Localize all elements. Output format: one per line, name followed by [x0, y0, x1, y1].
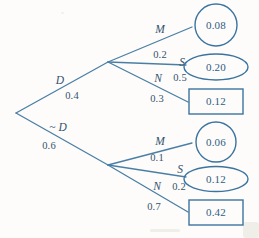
branch-prob-lower-M: 0.1: [150, 152, 164, 163]
branch-label-upper-N: N: [153, 72, 163, 84]
branch-prob-upper-N: 0.3: [150, 93, 164, 104]
branch-prob-D: 0.4: [65, 90, 79, 101]
branch-prob-upper-M: 0.2: [153, 49, 167, 60]
branch-prob-not-D: 0.6: [42, 140, 56, 151]
outcome-value-1: 0.08: [206, 19, 226, 31]
branch-label-D: D: [55, 74, 65, 86]
branch-label-lower-N: N: [152, 180, 162, 192]
branch-label-not-D: ~ D: [49, 121, 67, 133]
outcome-value-4: 0.06: [206, 136, 226, 148]
outcome-value-6: 0.42: [206, 206, 226, 218]
tree-canvas: D 0.4 ~ D 0.6 M 0.2 S 0.5 N 0.3 M 0.1 S …: [0, 0, 259, 238]
outcome-value-3: 0.12: [206, 95, 226, 107]
branch-label-lower-M: M: [154, 135, 166, 147]
branch-label-upper-M: M: [154, 23, 166, 35]
edge-root-to-D: [16, 62, 108, 113]
outcome-value-5: 0.12: [206, 173, 226, 185]
branch-label-lower-S: S: [177, 163, 183, 175]
branch-prob-lower-N: 0.7: [147, 201, 161, 212]
edge-not-D-to-S: [108, 165, 186, 177]
edge-D-to-S: [108, 62, 186, 65]
probability-tree-diagram: D 0.4 ~ D 0.6 M 0.2 S 0.5 N 0.3 M 0.1 S …: [0, 0, 259, 238]
outcome-value-2: 0.20: [206, 61, 226, 73]
branch-prob-upper-S: 0.5: [173, 72, 187, 83]
branch-prob-lower-S: 0.2: [172, 181, 186, 192]
